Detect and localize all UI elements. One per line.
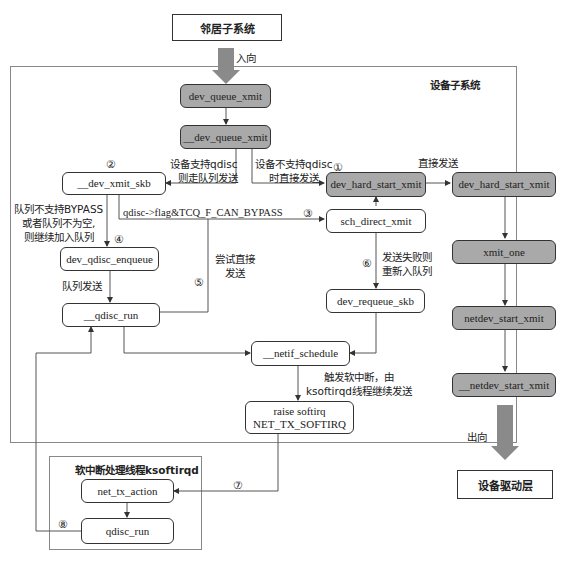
fail-requeue-line1: 发送失败则 bbox=[382, 250, 432, 264]
node-dev-hard-start-xmit-2[interactable]: dev_hard_start_xmit bbox=[452, 172, 556, 197]
raise-softirq-line1: raise softirq bbox=[273, 405, 325, 418]
try-direct-line2: 发送 bbox=[215, 266, 255, 280]
no-bypass-line1: 队列不支持BYPASS bbox=[14, 202, 103, 216]
step-2-marker: ② bbox=[106, 157, 116, 171]
annotation-no-qdisc: 设备不支持qdisc 时直接发送 bbox=[255, 157, 333, 185]
node-dev-requeue-skb[interactable]: dev_requeue_skb bbox=[326, 289, 425, 313]
inbound-label: 入向 bbox=[236, 51, 256, 65]
step-6-marker: ⑥ bbox=[362, 256, 372, 270]
step-5-marker: ⑤ bbox=[194, 275, 204, 289]
step-8-marker: ⑧ bbox=[58, 517, 68, 531]
outbound-label: 出向 bbox=[467, 430, 487, 444]
step-7-marker: ⑦ bbox=[233, 478, 243, 492]
support-qdisc-line1: 设备支持qdisc bbox=[170, 157, 238, 171]
node-xmit-one[interactable]: xmit_one bbox=[452, 240, 556, 264]
raise-softirq-line2: NET_TX_SOFTIRQ bbox=[253, 418, 346, 431]
node-dev-qdisc-enqueue[interactable]: dev_qdisc_enqueue bbox=[60, 247, 159, 271]
device-subsystem-title: 设备子系统 bbox=[430, 78, 480, 92]
try-direct-line1: 尝试直接 bbox=[215, 252, 255, 266]
support-qdisc-line2: 则走队列发送 bbox=[170, 171, 238, 185]
annotation-fail-requeue: 发送失败则 重新入队列 bbox=[382, 250, 432, 278]
node-raise-softirq[interactable]: raise softirq NET_TX_SOFTIRQ bbox=[245, 401, 354, 434]
annotation-queue-send: 队列发送 bbox=[62, 279, 102, 293]
node-sch-direct-xmit[interactable]: sch_direct_xmit bbox=[326, 209, 426, 233]
node-dev-hard-start-xmit-1[interactable]: dev_hard_start_xmit bbox=[326, 172, 426, 197]
node-dev-queue-xmit[interactable]: dev_queue_xmit bbox=[180, 84, 271, 108]
step-3-marker: ③ bbox=[303, 206, 313, 220]
node-__netdev-start-xmit[interactable]: __netdev_start_xmit bbox=[452, 373, 556, 397]
annotation-no-bypass: 队列不支持BYPASS 或者队列不为空, 则继续加入队列 bbox=[14, 202, 103, 244]
node-qdisc-run[interactable]: qdisc_run bbox=[81, 518, 174, 544]
neighbor-subsystem-box: 邻居子系统 bbox=[172, 14, 282, 41]
step-4-marker: ④ bbox=[114, 232, 124, 246]
node-__dev-xmit-skb[interactable]: __dev_xmit_skb bbox=[62, 172, 166, 195]
device-driver-layer-box: 设备驱动层 bbox=[457, 470, 553, 499]
step-1-marker: ① bbox=[333, 160, 343, 174]
softirq-line1: 触发软中断，由 bbox=[306, 370, 412, 384]
node-net-tx-action[interactable]: net_tx_action bbox=[81, 479, 174, 503]
softirq-thread-title: 软中断处理线程ksoftirqd bbox=[75, 463, 199, 477]
no-qdisc-line2: 时直接发送 bbox=[255, 171, 333, 185]
annotation-bypass-flag: qdisc->flag&TCQ_F_CAN_BYPASS bbox=[123, 206, 283, 220]
annotation-try-direct: 尝试直接 发送 bbox=[215, 252, 255, 280]
fail-requeue-line2: 重新入队列 bbox=[382, 264, 432, 278]
no-qdisc-line1: 设备不支持qdisc bbox=[255, 157, 333, 171]
node-__qdisc-run[interactable]: __qdisc_run bbox=[62, 303, 160, 327]
node-netdev-start-xmit[interactable]: netdev_start_xmit bbox=[452, 306, 556, 330]
node-__netif-schedule[interactable]: __netif_schedule bbox=[251, 341, 350, 366]
softirq-line2: ksoftirqd线程继续发送 bbox=[306, 384, 412, 398]
annotation-direct-send: 直接发送 bbox=[418, 156, 458, 170]
no-bypass-line3: 则继续加入队列 bbox=[14, 230, 103, 244]
node-__dev-queue-xmit[interactable]: __dev_queue_xmit bbox=[180, 125, 271, 149]
annotation-support-qdisc: 设备支持qdisc 则走队列发送 bbox=[170, 157, 238, 185]
annotation-softirq: 触发软中断，由 ksoftirqd线程继续发送 bbox=[306, 370, 412, 398]
no-bypass-line2: 或者队列不为空, bbox=[14, 216, 103, 230]
